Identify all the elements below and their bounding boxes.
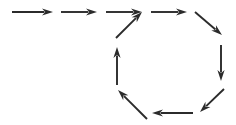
arrow-cycle-right-top xyxy=(151,8,187,15)
arrow-cycle-left-bottom xyxy=(152,109,193,116)
arrow-cycle-up-right-shaft xyxy=(116,18,136,38)
arrow-cycle-diagram xyxy=(0,0,236,125)
arrow-cycle-down-right xyxy=(195,12,222,35)
arrow-inflow-right-1 xyxy=(12,8,53,15)
arrow-cycle-down-left xyxy=(200,89,224,112)
arrow-cycle-down-right-shaft xyxy=(195,12,215,29)
arrow-layer xyxy=(12,8,225,119)
arrow-cycle-up-left xyxy=(118,90,147,119)
arrow-cycle-up-left-shaft xyxy=(124,96,147,119)
arrow-cycle-down-left-shaft xyxy=(206,89,224,106)
arrow-cycle-down xyxy=(217,45,224,81)
arrow-cycle-up-right xyxy=(116,12,142,38)
arrow-inflow-right-2 xyxy=(61,8,97,15)
arrow-inflow-right-3 xyxy=(106,8,142,15)
arrow-cycle-up xyxy=(113,47,120,85)
diagram-canvas xyxy=(0,0,236,125)
